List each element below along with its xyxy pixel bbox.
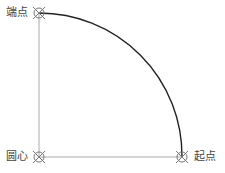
- end-point-label: 端点: [6, 7, 28, 19]
- start-point-label: 起点: [194, 151, 216, 163]
- arc: [39, 13, 182, 157]
- center-point-label: 圆心: [6, 151, 28, 163]
- arc-diagram: [0, 0, 225, 173]
